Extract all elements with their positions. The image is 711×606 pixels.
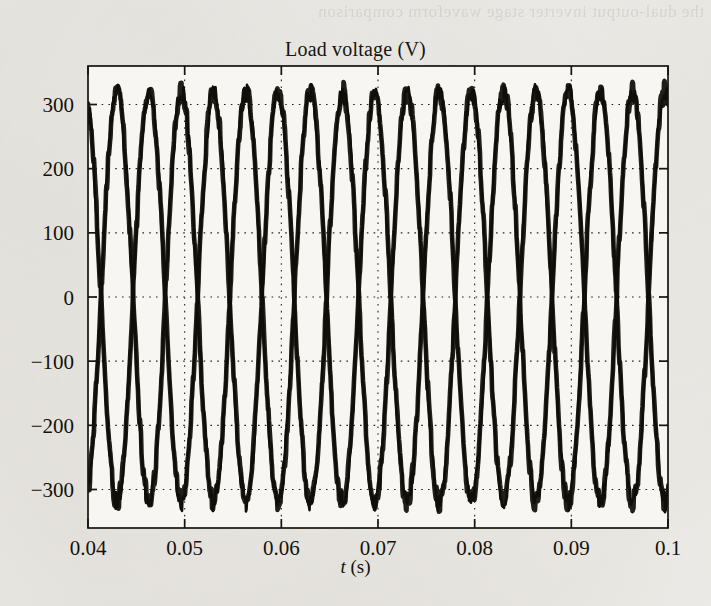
y-tick-label: 100 xyxy=(43,221,75,245)
x-axis-label-symbol: t xyxy=(340,556,345,577)
x-axis-label: t (s) xyxy=(0,556,711,578)
y-tick-label: 300 xyxy=(43,93,75,117)
y-tick-label: −100 xyxy=(31,350,74,374)
y-tick-label: 200 xyxy=(43,157,75,181)
chart-plot-area: 3002001000−100−200−3000.040.050.060.070.… xyxy=(0,0,711,606)
y-tick-label: 0 xyxy=(64,286,75,310)
y-tick-label: −300 xyxy=(31,478,74,502)
chart-svg: 3002001000−100−200−3000.040.050.060.070.… xyxy=(0,0,711,606)
x-axis-label-unit: (s) xyxy=(350,556,370,577)
y-tick-label: −200 xyxy=(31,414,74,438)
